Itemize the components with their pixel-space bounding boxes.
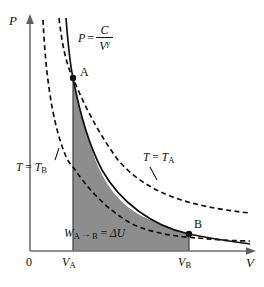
isotherm-ta-sub: A (168, 155, 174, 165)
equation-lhs: P (78, 32, 85, 44)
x-axis-label: V (246, 256, 254, 269)
origin-label: 0 (26, 256, 32, 268)
equation-denominator: Vγ (96, 38, 113, 52)
isotherm-tb-sub: B (41, 165, 47, 175)
work-area-label: WA→B = ΔU (64, 228, 125, 240)
pv-diagram-canvas (0, 0, 264, 287)
leader-line-tb (55, 148, 59, 160)
leader-line-ta (150, 167, 157, 180)
x-tick-vb-sub: B (185, 260, 191, 270)
isotherm-ta-equals: = (152, 151, 159, 163)
pv-diagram-figure: P V 0 VA VB A B T = TB T = TA WA→B = ΔU … (0, 0, 264, 287)
isotherm-tb-prefix: T (16, 161, 22, 173)
work-sub-to: B (92, 231, 98, 241)
x-tick-va-sub: A (69, 260, 75, 270)
work-arrow-icon: → (80, 228, 92, 239)
isotherm-label-ta: T = TA (143, 152, 174, 164)
equation-equals: = (87, 32, 94, 44)
x-tick-label-vb: VB (178, 256, 191, 269)
isotherm-ta-prefix: T (143, 151, 149, 163)
state-point-a (70, 75, 76, 81)
point-label-a: A (80, 66, 89, 78)
equation-numerator: C (97, 24, 111, 37)
equation-fraction: C Vγ (96, 24, 113, 52)
isotherm-tb-equals: = (25, 161, 32, 173)
x-tick-label-va: VA (62, 256, 76, 269)
x-axis-arrowhead (246, 247, 256, 255)
work-equals: = (101, 227, 108, 239)
y-axis-label: P (9, 14, 17, 27)
work-sub-from: A (74, 231, 80, 241)
isotherm-label-tb: T = TB (16, 162, 47, 174)
state-point-b (186, 231, 192, 237)
adiabat-equation: P = C Vγ (78, 24, 113, 52)
work-result: ΔU (110, 227, 125, 239)
point-label-b: B (194, 218, 202, 230)
y-axis-arrowhead (26, 14, 34, 24)
work-symbol: W (64, 227, 74, 239)
equation-denominator-exponent: γ (106, 38, 109, 48)
